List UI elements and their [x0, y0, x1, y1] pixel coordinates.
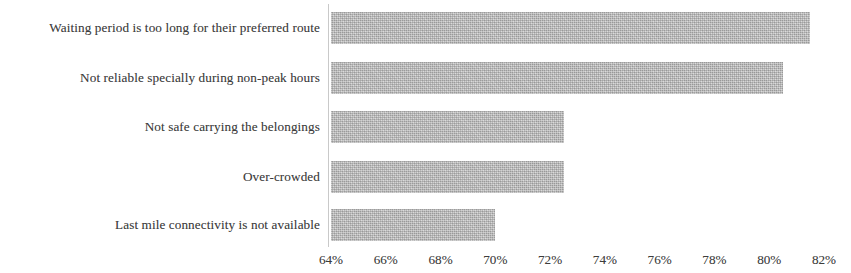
bar: [331, 62, 783, 94]
value-tick-label: 76%: [648, 252, 672, 268]
category-label: Over-crowded: [0, 169, 320, 185]
value-tick-label: 74%: [593, 252, 617, 268]
bar: [331, 12, 810, 44]
category-axis: Waiting period is too long for their pre…: [0, 0, 320, 247]
category-label: Not reliable specially during non-peak h…: [0, 70, 320, 86]
value-tick-label: 68%: [428, 252, 452, 268]
category-label: Last mile connectivity is not available: [0, 217, 320, 233]
value-tick-label: 72%: [538, 252, 562, 268]
value-axis-line: [328, 4, 329, 247]
bar: [331, 161, 564, 193]
bar-chart: Waiting period is too long for their pre…: [0, 0, 851, 273]
value-tick-label: 66%: [374, 252, 398, 268]
bar: [331, 209, 495, 241]
category-label: Not safe carrying the belongings: [0, 119, 320, 135]
value-tick-label: 80%: [757, 252, 781, 268]
value-tick-label: 64%: [319, 252, 343, 268]
value-axis: 64%66%68%70%72%74%76%78%80%82%: [331, 247, 851, 273]
value-tick-label: 78%: [702, 252, 726, 268]
value-tick-label: 82%: [812, 252, 836, 268]
bar: [331, 111, 564, 143]
plot-area: [331, 0, 851, 247]
category-label: Waiting period is too long for their pre…: [0, 20, 320, 36]
value-tick-label: 70%: [483, 252, 507, 268]
